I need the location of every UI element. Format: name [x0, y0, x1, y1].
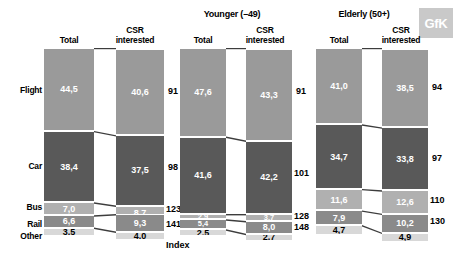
segment-other: 4,9 [382, 233, 428, 242]
segment-value: 9,3 [116, 218, 164, 227]
segment-value: 38,4 [44, 162, 94, 171]
segment-other: 2,5 [180, 229, 226, 236]
segment-value: 37,5 [116, 166, 164, 175]
segment-flight: 44,5 [44, 48, 94, 131]
segment-rail: 6,6 [44, 215, 94, 227]
segment-value: 7,9 [316, 213, 362, 222]
index-value-bus: 123 [166, 204, 181, 214]
index-value-car: 101 [294, 168, 309, 178]
segment-flight: 41,0 [316, 48, 362, 124]
segment-value: 12,6 [382, 197, 428, 206]
segment-flight: 43,3 [246, 49, 292, 140]
segment-value: 2,5 [180, 229, 226, 236]
segment-value: 4,7 [316, 225, 362, 234]
panel-elderly: Elderly (50+) Total CSR interested 41,0 … [316, 0, 438, 261]
index-value-rail: 148 [294, 222, 309, 232]
segment-value: 41,6 [180, 171, 226, 180]
index-caption: Index [166, 240, 190, 250]
column-header-csr-line2: interested [106, 35, 164, 45]
segment-car: 42,2 [246, 141, 292, 214]
index-value-rail: 141 [166, 219, 181, 229]
index-value-flight: 91 [296, 86, 306, 96]
panel-total: Total CSR interested 44,5 38,4 7,0 6,6 [44, 0, 166, 261]
segment-value: 38,5 [382, 84, 428, 93]
row-label-car: Car [28, 162, 42, 171]
row-label-bus: Bus [27, 203, 42, 212]
panel-title-elderly: Elderly (50+) [306, 9, 422, 19]
row-label-flight: Flight [20, 86, 42, 95]
segment-rail: 10,2 [382, 214, 428, 233]
segment-rail: 5,4 [180, 219, 226, 229]
segment-value: 47,6 [180, 88, 226, 97]
segment-other: 4,7 [316, 225, 362, 235]
column-header-total: Total [44, 35, 94, 45]
segment-value: 34,7 [316, 152, 362, 161]
segment-car: 33,8 [382, 127, 428, 190]
segment-bus: 7,0 [44, 202, 94, 215]
segment-value: 3,7 [246, 214, 292, 221]
segment-value: 33,8 [382, 154, 428, 163]
index-value-flight: 91 [168, 86, 178, 96]
segment-value: 10,2 [382, 219, 428, 228]
index-value-flight: 94 [432, 82, 442, 92]
segment-other: 4,0 [116, 232, 164, 240]
segment-value: 42,2 [246, 173, 292, 182]
segment-other: 3,5 [44, 228, 94, 236]
row-label-other: Other [20, 232, 42, 241]
segment-value: 43,3 [246, 90, 292, 99]
segment-flight: 38,5 [382, 49, 428, 127]
segment-value: 3,5 [44, 228, 94, 236]
column-header-total: Total [316, 35, 362, 45]
segment-other: 2,7 [246, 234, 292, 241]
segment-value: 5,4 [180, 221, 226, 229]
segment-bus: 12,6 [382, 190, 428, 213]
segment-flight: 40,6 [116, 49, 164, 135]
column-header-csr: CSR interested [106, 25, 164, 45]
column-header-csr-line2: interested [372, 35, 430, 45]
segment-bus: 11,6 [316, 189, 362, 211]
segment-value: 4,9 [382, 233, 428, 242]
segment-value: 44,5 [44, 85, 94, 94]
segment-bus: 3,7 [246, 214, 292, 221]
column-header-csr-line1: CSR [236, 25, 294, 35]
panel-younger: Younger (–49) Total CSR interested 47,6 … [180, 0, 302, 261]
segment-value: 4,0 [116, 232, 164, 240]
segment-value: 6,6 [44, 217, 94, 226]
index-value-bus: 128 [294, 211, 309, 221]
column-header-csr-line1: CSR [106, 25, 164, 35]
segment-car: 38,4 [44, 131, 94, 202]
segment-car: 37,5 [116, 135, 164, 205]
index-value-car: 97 [432, 153, 442, 163]
segment-car: 41,6 [180, 137, 226, 214]
segment-rail: 9,3 [116, 214, 164, 232]
index-value-bus: 110 [430, 195, 445, 205]
segment-value: 41,0 [316, 82, 362, 91]
row-label-column: Flight Car Bus Rail Other [2, 0, 44, 261]
segment-value: 2,7 [246, 234, 292, 241]
segment-value: 8,0 [246, 223, 292, 232]
column-header-csr: CSR interested [236, 25, 294, 45]
column-header-csr: CSR interested [372, 25, 430, 45]
index-value-rail: 130 [430, 216, 445, 226]
chart-canvas: GfK Flight Car Bus Rail Other Total CSR … [0, 0, 459, 261]
segment-value: 11,6 [316, 195, 362, 204]
column-header-csr-line1: CSR [372, 25, 430, 35]
segment-rail: 7,9 [316, 210, 362, 225]
column-header-csr-line2: interested [236, 35, 294, 45]
row-label-rail: Rail [27, 220, 42, 229]
segment-value: 40,6 [116, 88, 164, 97]
segment-flight: 47,6 [180, 48, 226, 137]
segment-car: 34,7 [316, 124, 362, 189]
segment-rail: 8,0 [246, 221, 292, 234]
segment-value: 7,0 [44, 204, 94, 213]
column-header-total: Total [180, 35, 226, 45]
index-value-car: 98 [168, 162, 178, 172]
panel-title-younger: Younger (–49) [172, 9, 292, 19]
